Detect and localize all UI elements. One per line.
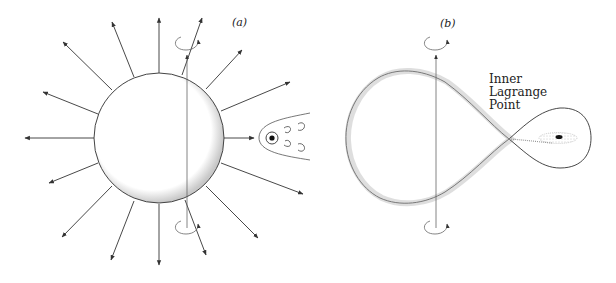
panel-b: (b) Inner Lagrange Point — [346, 17, 591, 234]
annotation-point: Point — [489, 98, 520, 112]
diagram-canvas: (a) (b) Inner Lagrange Point — [0, 0, 616, 283]
wake-eddies — [284, 123, 305, 151]
panel-a-label: (a) — [232, 16, 247, 29]
companion-star — [269, 135, 274, 140]
annotation-inner: Inner — [489, 72, 522, 86]
panel-b-label: (b) — [440, 17, 456, 30]
roche-lobe-primary — [346, 71, 509, 203]
annotation-lagrange: Lagrange — [489, 85, 547, 99]
companion-core — [556, 135, 563, 139]
rotation-arrow-top-b — [424, 37, 447, 50]
panel-a: (a) — [25, 16, 310, 265]
